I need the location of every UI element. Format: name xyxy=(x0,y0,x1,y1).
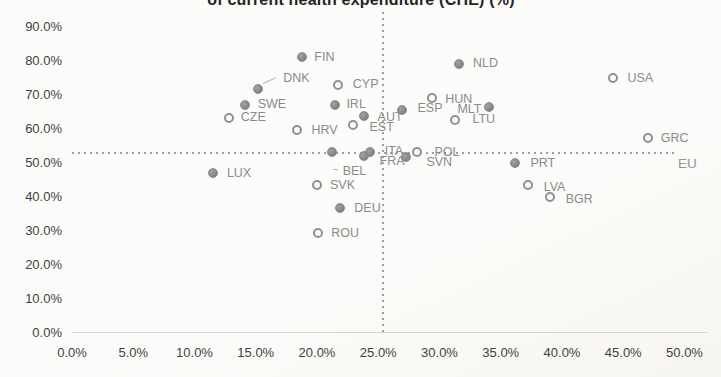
marker-bgr xyxy=(545,192,555,202)
y-axis-tick-label: 0.0% xyxy=(0,324,62,339)
marker-fra xyxy=(359,151,369,161)
y-axis-tick-label: 10.0% xyxy=(0,290,62,305)
x-axis-tick-label: 30.0% xyxy=(421,345,458,360)
label-bel: BEL xyxy=(343,164,367,178)
y-axis-tick-label: 80.0% xyxy=(0,53,62,68)
x-axis-tick-label: 50.0% xyxy=(666,345,703,360)
label-deu: DEU xyxy=(354,201,380,215)
label-svk: SVK xyxy=(330,178,355,192)
marker-svk xyxy=(312,180,322,190)
marker-nld xyxy=(454,59,464,69)
marker-aut xyxy=(359,111,369,121)
x-axis-tick-label: 0.0% xyxy=(57,345,87,360)
label-svn: SVN xyxy=(426,155,452,169)
eu-vertical-reference-line xyxy=(382,12,384,334)
y-axis-tick-label: 70.0% xyxy=(0,87,62,102)
marker-dnk xyxy=(253,84,263,94)
label-irl: IRL xyxy=(346,97,365,111)
marker-cyp xyxy=(333,80,343,90)
label-bgr: BGR xyxy=(566,192,593,206)
plot-area: 0.0%10.0%20.0%30.0%40.0%50.0%60.0%70.0%8… xyxy=(0,0,721,377)
x-axis-tick-label: 45.0% xyxy=(605,345,642,360)
chart-figure: of current health expenditure (CHE) (%) … xyxy=(0,0,721,377)
eu-label: EU xyxy=(678,156,697,171)
marker-grc xyxy=(643,133,653,143)
marker-fin xyxy=(297,52,307,62)
marker-ltu xyxy=(450,115,460,125)
marker-lux xyxy=(208,168,218,178)
marker-cze xyxy=(224,113,234,123)
label-dnk: DNK xyxy=(283,71,309,85)
x-axis-line xyxy=(72,332,707,333)
marker-est xyxy=(348,120,358,130)
leader-line-bel xyxy=(333,169,338,170)
x-axis-tick-label: 35.0% xyxy=(482,345,519,360)
label-grc: GRC xyxy=(661,131,689,145)
x-axis-tick-label: 15.0% xyxy=(237,345,274,360)
marker-prt xyxy=(510,158,520,168)
label-swe: SWE xyxy=(258,97,286,111)
x-axis-tick-label: 20.0% xyxy=(299,345,336,360)
marker-pol xyxy=(412,147,422,157)
label-prt: PRT xyxy=(530,156,555,170)
x-axis-tick-label: 10.0% xyxy=(176,345,213,360)
marker-hrv xyxy=(292,125,302,135)
y-axis-tick-label: 20.0% xyxy=(0,256,62,271)
marker-swe xyxy=(240,100,250,110)
marker-esp xyxy=(397,105,407,115)
label-hrv: HRV xyxy=(311,123,337,137)
label-nld: NLD xyxy=(473,56,498,70)
marker-irl xyxy=(330,100,340,110)
label-esp: ESP xyxy=(418,101,443,115)
label-ltu: LTU xyxy=(472,112,495,126)
marker-bel xyxy=(327,147,337,157)
y-axis-tick-label: 40.0% xyxy=(0,188,62,203)
marker-mlt xyxy=(484,102,494,112)
marker-rou xyxy=(313,228,323,238)
y-axis-tick-label: 90.0% xyxy=(0,19,62,34)
label-usa: USA xyxy=(627,71,653,85)
label-lux: LUX xyxy=(227,166,251,180)
leader-line-dnk xyxy=(263,77,276,84)
x-axis-tick-label: 25.0% xyxy=(360,345,397,360)
marker-deu xyxy=(335,203,345,213)
marker-svn xyxy=(401,152,411,162)
y-axis-tick-label: 30.0% xyxy=(0,222,62,237)
x-axis-tick-label: 5.0% xyxy=(118,345,148,360)
label-fin: FIN xyxy=(314,50,334,64)
y-axis-tick-label: 50.0% xyxy=(0,154,62,169)
label-rou: ROU xyxy=(331,226,359,240)
marker-lva xyxy=(523,180,533,190)
x-axis-tick-label: 40.0% xyxy=(544,345,581,360)
label-cze: CZE xyxy=(241,110,266,124)
y-axis-tick-label: 60.0% xyxy=(0,120,62,135)
marker-usa xyxy=(608,73,618,83)
label-cyp: CYP xyxy=(353,77,379,91)
